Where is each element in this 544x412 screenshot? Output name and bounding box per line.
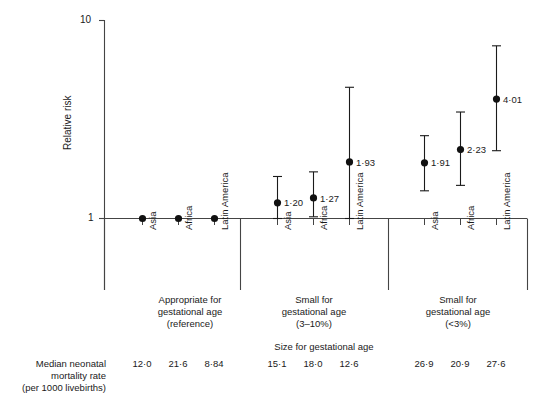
mortality-row-label-line-2: mortality rate xyxy=(8,370,106,382)
group-caption-1: Appropriate for gestational age (referen… xyxy=(135,294,245,330)
relative-risk-forest-chart: Relative risk 10 1 xyxy=(0,0,544,412)
x-tick-label-g2-africa: Africa xyxy=(318,206,329,230)
data-point-value-label: 4·01 xyxy=(503,94,522,105)
data-point-marker xyxy=(493,95,500,102)
data-point-value-label: 1·91 xyxy=(431,157,450,168)
data-point-marker xyxy=(457,146,464,153)
data-point-value-label: 1·20 xyxy=(284,197,303,208)
group-caption-3: Small for gestational age (<3%) xyxy=(403,294,513,330)
data-series-group: 1·201·271·931·912·234·01 xyxy=(139,46,522,222)
mortality-value-g2-latin-america: 12·6 xyxy=(324,358,374,369)
data-point-marker xyxy=(310,194,317,201)
x-tick-label-g2-asia: Asia xyxy=(282,212,293,230)
x-tick-label-g1-africa: Africa xyxy=(183,206,194,230)
data-point-marker xyxy=(346,158,353,165)
mortality-row-label-line-1: Median neonatal xyxy=(8,358,106,370)
x-tick-label-g1-latin-america: Latin America xyxy=(219,172,230,230)
data-point-marker xyxy=(421,159,428,166)
data-point-marker xyxy=(211,215,218,222)
data-point-value-label: 2·23 xyxy=(467,144,486,155)
data-point-value-label: 1·93 xyxy=(356,157,375,168)
group-caption-1-line-3: (reference) xyxy=(135,318,245,330)
mortality-value-g1-latin-america: 8·84 xyxy=(189,358,239,369)
group-caption-1-line-2: gestational age xyxy=(135,306,245,318)
group-caption-1-line-1: Appropriate for xyxy=(135,294,245,306)
group-caption-3-line-1: Small for xyxy=(403,294,513,306)
data-point-marker xyxy=(274,199,281,206)
group-caption-2-line-2: gestational age xyxy=(259,306,369,318)
x-tick-label-g3-latin-america: Latin America xyxy=(501,172,512,230)
data-point-marker xyxy=(139,215,146,222)
x-axis-title: Size for gestational age xyxy=(230,341,418,352)
group-caption-3-line-3: (<3%) xyxy=(403,318,513,330)
mortality-row-label-line-3: (per 1000 livebirths) xyxy=(8,382,106,394)
group-caption-2: Small for gestational age (3–10%) xyxy=(259,294,369,330)
data-point-marker xyxy=(175,215,182,222)
x-tick-label-g2-latin-america: Latin America xyxy=(354,172,365,230)
group-caption-2-line-1: Small for xyxy=(259,294,369,306)
group-caption-3-line-2: gestational age xyxy=(403,306,513,318)
x-tick-label-g3-asia: Asia xyxy=(429,212,440,230)
data-point-value-label: 1·27 xyxy=(320,193,339,204)
axes-group xyxy=(99,20,528,290)
mortality-row-label: Median neonatal mortality rate (per 1000… xyxy=(8,358,106,394)
group-caption-2-line-3: (3–10%) xyxy=(259,318,369,330)
x-tick-label-g3-africa: Africa xyxy=(465,206,476,230)
mortality-value-g3-latin-america: 27·6 xyxy=(471,358,521,369)
x-tick-label-g1-asia: Asia xyxy=(147,212,158,230)
